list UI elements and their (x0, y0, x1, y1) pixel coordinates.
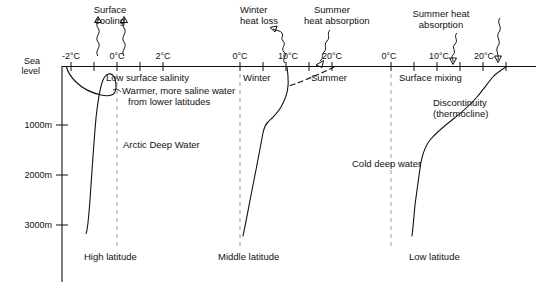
sea-level-label-line2: level (21, 66, 40, 76)
label-discontinuity-line1: Discontinuity (433, 97, 487, 108)
axis-label-mid-0: 0°C (232, 51, 248, 61)
summer-heat-absorption-arrow-low-left (450, 33, 458, 65)
axis-label-low-0: 0°C (381, 51, 397, 61)
label-cold-deep-water: Cold deep water (352, 158, 421, 169)
label-warmer-saline-line1: Warmer, more saline water (122, 85, 235, 96)
axis-label-mid-20: 20°C (322, 51, 343, 61)
sea-level-label-line1: Sea (24, 56, 40, 66)
label-discontinuity-line2: (thermocline) (433, 108, 488, 119)
label-low-summer-heat-line1: Summer heat (412, 8, 469, 19)
depth-label-3000m: 3000m (24, 220, 52, 230)
panel-middle-latitude: 0°C 10°C 20°C Winter heat loss Summer he… (218, 4, 370, 262)
axis-label-low-20: 20°C (474, 51, 495, 61)
footer-low-latitude: Low latitude (409, 251, 460, 262)
summer-heat-absorption-arrow-low-right (495, 18, 502, 63)
depth-label-1000m: 1000m (24, 120, 52, 130)
label-warmer-saline-line2: from lower latitudes (128, 96, 211, 107)
depth-label-2000m: 2000m (24, 170, 52, 180)
curve-middle-latitude-winter (243, 67, 288, 236)
label-summer-curve: Summer (311, 72, 347, 83)
axis-label-low-10: 10°C (429, 51, 450, 61)
footer-middle-latitude: Middle latitude (218, 251, 279, 262)
axis-label-mid-10: 10°C (278, 51, 299, 61)
label-summer-heat-absorption-line1: Summer (314, 4, 350, 15)
label-winter-heat-loss-line1: Winter (240, 4, 267, 15)
panel-high-latitude: -2°C 0°C 2°C Surface cooling Low surface… (62, 4, 235, 262)
temperature-depth-figure: 1000m 2000m 3000m Sea level -2°C 0°C 2°C… (0, 0, 539, 290)
curve-high-latitude (67, 67, 117, 234)
axis-label-high-minus2: -2°C (62, 51, 81, 61)
label-low-summer-heat-line2: absorption (419, 19, 463, 30)
footer-high-latitude: High latitude (84, 251, 137, 262)
curve-low-latitude (412, 67, 506, 236)
label-winter-curve: Winter (243, 72, 270, 83)
summer-heat-absorption-arrow-mid (316, 30, 330, 68)
label-low-surface-salinity: Low surface salinity (106, 72, 189, 83)
axis-label-high-2: 2°C (155, 51, 171, 61)
label-surface-cooling-line2: cooling (95, 15, 125, 26)
label-surface-mixing: Surface mixing (399, 72, 462, 83)
panel-low-latitude: 0°C 10°C 20°C Summer heat absorption Sur… (352, 8, 506, 262)
label-arctic-deep-water: Arctic Deep Water (123, 139, 200, 150)
label-summer-heat-absorption-line2: heat absorption (304, 15, 370, 26)
label-winter-heat-loss-line2: heat loss (240, 15, 278, 26)
label-surface-cooling-line1: Surface (94, 4, 127, 15)
